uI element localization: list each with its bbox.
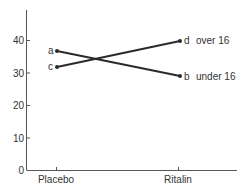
point-a bbox=[55, 49, 59, 53]
series-label-under-16: under 16 bbox=[196, 71, 236, 82]
chart: 40 30 20 10 0 Placebo Ritalin a c d b ov… bbox=[0, 0, 249, 193]
y-tick-label-10: 10 bbox=[13, 133, 25, 144]
point-label-d: d bbox=[184, 35, 190, 46]
y-tick-label-0: 0 bbox=[18, 165, 24, 176]
y-tick-label-40: 40 bbox=[13, 35, 25, 46]
y-ticks: 40 30 20 10 0 bbox=[13, 35, 30, 176]
x-tick-label-ritalin: Ritalin bbox=[164, 174, 192, 185]
x-ticks: Placebo Ritalin bbox=[38, 167, 192, 185]
x-tick-label-placebo: Placebo bbox=[38, 174, 75, 185]
point-label-c: c bbox=[48, 61, 53, 72]
point-d bbox=[178, 39, 182, 43]
point-label-b: b bbox=[184, 71, 190, 82]
point-label-a: a bbox=[48, 45, 54, 56]
point-b bbox=[178, 74, 182, 78]
y-tick-label-20: 20 bbox=[13, 100, 25, 111]
y-tick-label-30: 30 bbox=[13, 68, 25, 79]
point-c bbox=[55, 65, 59, 69]
series-label-over-16: over 16 bbox=[196, 35, 230, 46]
